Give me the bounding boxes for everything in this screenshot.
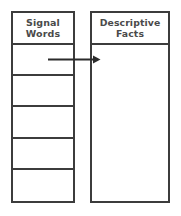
column-descriptive-facts: Descriptive Facts	[90, 11, 170, 203]
column-header-descriptive-facts-text: Descriptive Facts	[93, 17, 167, 39]
signal-words-row[interactable]	[13, 107, 73, 138]
signal-words-row[interactable]	[13, 139, 73, 170]
column-signal-words: Signal Words	[11, 11, 75, 203]
signal-words-rows	[13, 45, 73, 201]
column-header-descriptive-facts: Descriptive Facts	[92, 13, 168, 45]
signal-words-row[interactable]	[13, 76, 73, 107]
signal-words-row[interactable]	[13, 170, 73, 201]
column-header-signal-words: Signal Words	[13, 13, 73, 45]
descriptive-facts-body[interactable]	[92, 45, 168, 201]
column-header-signal-words-text: Signal Words	[14, 17, 72, 39]
graphic-organizer: Signal Words Descriptive Facts	[0, 0, 181, 216]
signal-words-row[interactable]	[13, 45, 73, 76]
